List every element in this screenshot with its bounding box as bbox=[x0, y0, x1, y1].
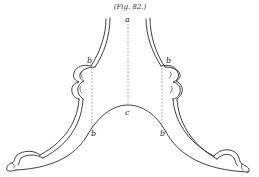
figure-caption: (Fig. 82.) bbox=[114, 3, 147, 11]
left-leg bbox=[7, 99, 88, 171]
left-scroll-knobs bbox=[72, 65, 95, 99]
label-b-upper-right: b bbox=[166, 56, 171, 65]
right-scroll-knobs bbox=[161, 65, 182, 99]
label-b-upper-left: b bbox=[87, 56, 92, 65]
label-a: a bbox=[125, 15, 130, 24]
figure-82-bracket-diagram: (Fig. 82.) a b b bbox=[0, 0, 259, 177]
label-b-lower-right: b bbox=[160, 129, 165, 138]
right-leg bbox=[166, 99, 249, 172]
label-b-lower-left: b bbox=[91, 129, 96, 138]
left-stem bbox=[91, 18, 110, 67]
right-stem bbox=[146, 18, 165, 67]
label-c: c bbox=[125, 108, 130, 117]
